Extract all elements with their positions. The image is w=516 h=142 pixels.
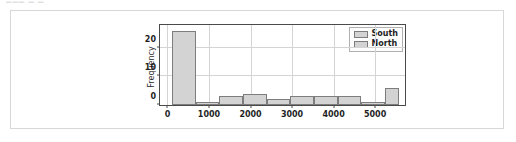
x-tick-label: 0	[165, 110, 171, 119]
plot-axes: South North 01020010002000300040005000	[159, 24, 406, 106]
histogram-bar	[219, 96, 243, 105]
gridline-horizontal	[160, 47, 405, 48]
x-tick-mark	[209, 105, 210, 108]
y-tick-label: 10	[145, 63, 156, 72]
x-tick-mark	[250, 105, 251, 108]
gridline-vertical	[292, 25, 293, 105]
x-tick-label: 2000	[239, 110, 261, 119]
y-tick-mark	[157, 75, 160, 76]
x-tick-mark	[292, 105, 293, 108]
gridline-vertical	[334, 25, 335, 105]
y-tick-label: 20	[145, 34, 156, 43]
x-tick-label: 1000	[198, 110, 220, 119]
figure-card: Frequency South North 010200100020003000…	[10, 10, 504, 129]
clipped-top-text: ▁▁▁ ▁ ▁	[6, 0, 66, 3]
y-tick-mark	[157, 46, 160, 47]
histogram-bar	[338, 96, 362, 105]
histogram-bar	[361, 102, 385, 105]
x-tick-mark	[375, 105, 376, 108]
y-tick-mark	[157, 104, 160, 105]
x-tick-mark	[167, 105, 168, 108]
gridline-vertical	[167, 25, 168, 105]
gridline-vertical	[209, 25, 210, 105]
gridline-vertical	[375, 25, 376, 105]
histogram-bar	[385, 88, 399, 105]
x-tick-label: 5000	[364, 110, 386, 119]
x-tick-label: 3000	[281, 110, 303, 119]
histogram-bar	[290, 96, 314, 105]
histogram-bar	[172, 31, 196, 105]
histogram-bar	[314, 96, 338, 105]
x-tick-label: 4000	[322, 110, 344, 119]
legend-swatch-south	[354, 31, 368, 38]
x-tick-mark	[333, 105, 334, 108]
y-tick-label: 0	[150, 92, 156, 101]
gridline-horizontal	[160, 75, 405, 76]
histogram-bar	[267, 99, 291, 105]
histogram-plot: Frequency South North 010200100020003000…	[123, 15, 413, 127]
histogram-bar	[243, 94, 267, 105]
